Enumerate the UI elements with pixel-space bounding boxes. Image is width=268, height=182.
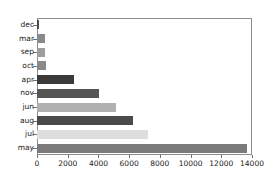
bar-rect-may bbox=[37, 144, 247, 153]
y-tick-label-apr: apr bbox=[22, 76, 34, 84]
x-tick-label-0: 0 bbox=[35, 159, 40, 168]
bar-oct bbox=[37, 59, 252, 73]
bar-chart: decmarsepoctaprnovjunaugjulmay 020004000… bbox=[0, 0, 268, 182]
x-tick-label-10000: 10000 bbox=[179, 159, 203, 168]
bar-apr bbox=[37, 73, 252, 87]
x-tick-8000 bbox=[160, 155, 161, 158]
bar-rect-nov bbox=[37, 89, 99, 98]
y-tick-label-sep: sep bbox=[21, 48, 34, 56]
bar-rect-sep bbox=[37, 48, 45, 57]
y-tick-label-dec: dec bbox=[21, 21, 35, 29]
y-tick-label-aug: aug bbox=[20, 117, 34, 125]
x-tick-6000 bbox=[129, 155, 130, 158]
bar-nov bbox=[37, 87, 252, 101]
bar-may bbox=[37, 141, 252, 155]
x-tick-label-12000: 12000 bbox=[209, 159, 233, 168]
x-tick-4000 bbox=[98, 155, 99, 158]
bar-dec bbox=[37, 18, 252, 32]
x-tick-12000 bbox=[221, 155, 222, 158]
y-tick-label-oct: oct bbox=[22, 62, 34, 70]
bar-mar bbox=[37, 32, 252, 46]
bar-rect-aug bbox=[37, 116, 133, 125]
bar-rect-apr bbox=[37, 75, 74, 84]
y-tick-label-mar: mar bbox=[19, 35, 34, 43]
y-tick-label-may: may bbox=[18, 144, 34, 152]
x-tick-0 bbox=[37, 155, 38, 158]
bar-rect-oct bbox=[37, 61, 46, 70]
bar-sep bbox=[37, 45, 252, 59]
bar-rect-jul bbox=[37, 130, 148, 139]
bar-rect-dec bbox=[37, 20, 39, 29]
x-tick-14000 bbox=[252, 155, 253, 158]
bar-rect-mar bbox=[37, 34, 45, 43]
bar-jun bbox=[37, 100, 252, 114]
y-tick-label-nov: nov bbox=[20, 89, 34, 97]
x-tick-label-4000: 4000 bbox=[89, 159, 108, 168]
bar-jul bbox=[37, 128, 252, 142]
bar-aug bbox=[37, 114, 252, 128]
x-tick-label-8000: 8000 bbox=[150, 159, 169, 168]
y-tick-label-jun: jun bbox=[22, 103, 34, 111]
x-tick-label-14000: 14000 bbox=[240, 159, 264, 168]
x-tick-10000 bbox=[191, 155, 192, 158]
y-tick-label-jul: jul bbox=[25, 130, 34, 138]
x-tick-label-6000: 6000 bbox=[120, 159, 139, 168]
x-tick-2000 bbox=[68, 155, 69, 158]
bar-rect-jun bbox=[37, 103, 116, 112]
x-tick-label-2000: 2000 bbox=[58, 159, 77, 168]
